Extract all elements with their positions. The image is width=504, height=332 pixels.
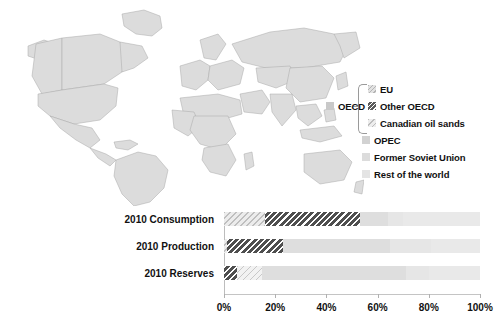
bar-segment-canadian-oil-sands — [237, 266, 263, 280]
bar-row — [224, 212, 480, 226]
bar-segment-eu — [224, 212, 265, 226]
bar-segment-opec — [360, 212, 388, 226]
x-axis-tick — [480, 294, 481, 298]
map-region-canada-east — [62, 34, 128, 90]
map-region-canada-ne — [120, 42, 148, 72]
x-axis-tick — [275, 294, 276, 298]
bar-segment-opec — [262, 266, 405, 280]
map-region-greenland — [122, 10, 162, 36]
bar-segment-rest-of-the-world — [403, 212, 480, 226]
x-axis-tick — [378, 294, 379, 298]
legend-item-rest-of-the-world[interactable]: Rest of the world — [362, 167, 449, 181]
bar-category-label: 2010 Consumption — [14, 214, 214, 225]
canadian-oil-sands-swatch-icon — [368, 119, 376, 127]
bar-category-label: 2010 Reserves — [14, 268, 214, 279]
legend-item-label: Former Soviet Union — [374, 152, 466, 163]
map-region-sea — [296, 104, 322, 126]
bar-segment-other-oecd — [224, 266, 237, 280]
legend-item-label: EU — [380, 84, 393, 95]
eu-swatch-icon — [368, 85, 376, 93]
bar-segment-other-oecd — [227, 239, 283, 253]
x-axis-tick-label: 40% — [306, 302, 346, 313]
legend-item-label: Other OECD — [380, 101, 434, 112]
map-region-central-america — [90, 148, 116, 166]
map-region-new-zealand — [354, 180, 364, 194]
x-axis-tick — [326, 294, 327, 298]
opec-swatch-icon — [362, 136, 370, 144]
map-region-caribbean — [114, 140, 138, 150]
x-axis-tick — [429, 294, 430, 298]
map-region-central-africa — [190, 116, 236, 150]
map-region-russia — [232, 28, 348, 68]
bar-segment-former-soviet-union — [406, 266, 429, 280]
stacked-bar-chart: 2010 Consumption2010 Production2010 Rese… — [0, 208, 504, 332]
figure-root: OECD EU Other OECD Canadian oil sands OP… — [0, 0, 504, 332]
map-region-europe-east — [208, 60, 244, 90]
legend-item-former-soviet-union[interactable]: Former Soviet Union — [362, 150, 466, 164]
bar-category-label: 2010 Production — [14, 241, 214, 252]
oecd-swatch-icon — [326, 102, 334, 110]
map-region-south-america — [114, 152, 168, 206]
legend-group-label: OECD — [338, 101, 365, 112]
former-soviet-union-swatch-icon — [362, 153, 370, 161]
legend-group-oecd[interactable]: OECD — [326, 99, 365, 113]
x-axis-tick-label: 20% — [255, 302, 295, 313]
x-axis-tick-label: 80% — [409, 302, 449, 313]
map-region-southern-africa — [202, 144, 236, 176]
other-oecd-swatch-icon — [368, 102, 376, 110]
bar-segment-opec — [283, 239, 391, 253]
legend-item-label: Rest of the world — [374, 169, 449, 180]
map-region-scandinavia — [200, 34, 226, 60]
map-region-india — [270, 94, 296, 126]
legend-item-label: OPEC — [374, 135, 401, 146]
bar-row — [224, 266, 480, 280]
x-axis-tick-label: 100% — [460, 302, 500, 313]
world-map-svg — [4, 2, 364, 206]
map-region-madagascar — [244, 152, 254, 170]
legend-item-eu[interactable]: EU — [368, 82, 393, 96]
bar-segment-rest-of-the-world — [431, 239, 480, 253]
bar-segment-rest-of-the-world — [429, 266, 480, 280]
legend-item-other-oecd[interactable]: Other OECD — [368, 99, 434, 113]
legend-item-opec[interactable]: OPEC — [362, 133, 401, 147]
map-region-europe-west — [180, 60, 210, 90]
legend-item-label: Canadian oil sands — [380, 118, 465, 129]
map-legend: OECD EU Other OECD Canadian oil sands OP… — [326, 82, 504, 182]
map-region-canada-west — [32, 38, 62, 94]
x-axis-tick — [224, 294, 225, 298]
x-axis-tick-label: 0% — [204, 302, 244, 313]
map-region-middle-east — [240, 90, 270, 114]
legend-item-canadian-oil-sands[interactable]: Canadian oil sands — [368, 116, 465, 130]
rest-of-the-world-swatch-icon — [362, 170, 370, 178]
x-axis-tick-label: 60% — [358, 302, 398, 313]
bar-segment-other-oecd — [265, 212, 360, 226]
bar-segment-former-soviet-union — [388, 212, 403, 226]
bar-segment-former-soviet-union — [390, 239, 431, 253]
bar-row — [224, 239, 480, 253]
